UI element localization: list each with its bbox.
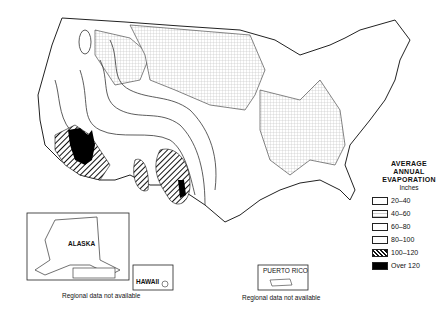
- puerto-rico-note: Regional data not available: [242, 294, 320, 301]
- swatch-hatch: [372, 249, 388, 257]
- legend-item: 60–80: [372, 220, 446, 233]
- swatch-grid: [372, 210, 388, 218]
- legend-item: 40–60: [372, 207, 446, 220]
- legend: AVERAGE ANNUAL EVAPORATION Inches 20–40 …: [372, 160, 446, 272]
- legend-item: 20–40: [372, 194, 446, 207]
- swatch-blank: [372, 236, 388, 244]
- swatch-blank: [372, 197, 388, 205]
- legend-title-2: ANNUAL: [372, 168, 446, 176]
- swatch-blank: [372, 223, 388, 231]
- legend-item: 100–120: [372, 246, 446, 259]
- alaska-hawaii-note: Regional data not available: [62, 292, 140, 299]
- alaska-label: ALASKA: [68, 240, 95, 247]
- legend-title-1: AVERAGE: [372, 160, 446, 168]
- legend-title-3: EVAPORATION: [372, 176, 446, 184]
- puerto-rico-label: PUERTO RICO: [263, 267, 308, 274]
- legend-item: Over 120: [372, 259, 446, 272]
- swatch-black: [372, 262, 388, 270]
- legend-item: 80–100: [372, 233, 446, 246]
- legend-units: Inches: [372, 184, 446, 191]
- hawaii-label: HAWAII: [136, 278, 159, 285]
